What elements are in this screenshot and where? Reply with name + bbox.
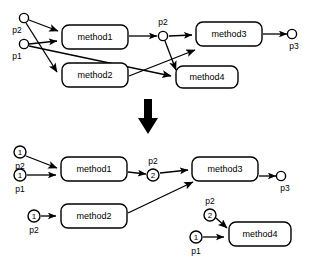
port-label: p1 (191, 246, 201, 256)
node-label: method1 (76, 164, 111, 174)
port-count: 1 (194, 233, 199, 242)
port-label: p3 (289, 41, 299, 51)
edge-p2in-to-method2 (26, 23, 57, 72)
node-method2-before[interactable]: method2 (62, 63, 128, 87)
port-circle[interactable] (19, 39, 28, 48)
edge-method2-to-method3 (128, 182, 193, 213)
downward-transformation-arrow (138, 99, 158, 134)
arrow-shape (138, 99, 158, 134)
port-p2-method2-after[interactable]: 1 p2 (28, 210, 40, 235)
node-label: method2 (77, 70, 112, 80)
node-label: method3 (211, 29, 246, 39)
node-method3-before[interactable]: method3 (196, 22, 262, 46)
edge-p2in-to-method1 (29, 20, 58, 31)
port-circle[interactable] (276, 171, 285, 180)
edge-method1-to-bp2mid (128, 172, 146, 174)
diagram-canvas: method1 method2 method3 method4 p2 p1 (0, 0, 314, 264)
dependency-graph-svg: method1 method2 method3 method4 p2 p1 (0, 0, 314, 264)
node-method1-after[interactable]: method1 (61, 157, 127, 181)
port-label: p2 (12, 25, 22, 35)
port-label: p2 (148, 156, 158, 166)
port-circle[interactable] (19, 13, 28, 22)
node-label: method1 (77, 32, 112, 42)
port-label: p1 (12, 51, 22, 61)
port-p3-output-after[interactable]: p3 (276, 171, 290, 193)
port-p2-method4-after[interactable]: 2 p2 (204, 196, 216, 221)
port-p2-method1-after[interactable]: 1 p2 (14, 146, 26, 171)
port-p1-input-before[interactable]: p1 (12, 39, 28, 61)
node-label: method4 (242, 229, 277, 239)
port-count: 1 (18, 148, 23, 157)
after-graph-group: method1 method2 method3 method4 1 p2 (14, 146, 291, 256)
edge-bp2-to-method1 (26, 156, 57, 168)
before-graph-group: method1 method2 method3 method4 p2 p1 (12, 13, 299, 88)
node-label: method4 (189, 72, 224, 82)
port-label: p1 (15, 184, 25, 194)
port-count: 2 (151, 171, 156, 180)
port-p3-output-before[interactable]: p3 (287, 29, 299, 51)
port-count: 2 (208, 211, 213, 220)
port-count: 1 (32, 212, 37, 221)
node-method4-after[interactable]: method4 (229, 222, 291, 246)
port-circle[interactable] (287, 29, 296, 38)
node-method4-before[interactable]: method4 (176, 66, 238, 88)
port-label: p2 (29, 225, 39, 235)
port-circle[interactable] (158, 31, 167, 40)
port-p2-intermediate-before[interactable]: p2 (158, 17, 168, 41)
port-p2-intermediate-after[interactable]: 2 p2 (147, 156, 159, 181)
edge-p1in-to-method1 (29, 41, 57, 44)
edge-bp2mid-to-method3 (160, 170, 188, 173)
edge-bp2-to-method4 (216, 218, 227, 228)
port-p1-method1-after[interactable]: 1 p1 (14, 169, 26, 194)
node-method3-after[interactable]: method3 (192, 157, 258, 181)
edge-p2mid-to-method3 (169, 35, 192, 36)
port-label: p2 (158, 17, 168, 27)
edge-p2mid-to-method4 (165, 41, 176, 70)
port-label: p3 (280, 183, 290, 193)
node-label: method2 (76, 211, 111, 221)
port-count: 1 (18, 171, 23, 180)
port-label: p2 (205, 196, 215, 206)
node-label: method3 (207, 164, 242, 174)
node-method2-after[interactable]: method2 (61, 204, 127, 228)
port-p1-method4-after[interactable]: 1 p1 (190, 231, 202, 256)
node-method1-before[interactable]: method1 (62, 25, 128, 49)
